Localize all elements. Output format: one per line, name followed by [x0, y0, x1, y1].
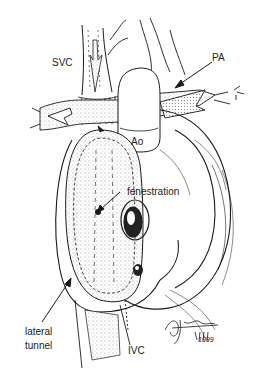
label-svc: SVC — [52, 57, 73, 68]
label-lateral-tunnel-line1: lateral — [25, 326, 52, 337]
signature-year: 1999 — [198, 334, 214, 345]
label-ao: Ao — [131, 136, 143, 147]
label-lateral-tunnel-line2: tunnel — [25, 340, 52, 351]
ivc-vessel — [75, 300, 130, 368]
label-pa: PA — [212, 52, 225, 63]
fontan-lateral-tunnel-illustration: SVC PA Ao fenestration lateral tunnel IV… — [0, 0, 256, 368]
svc-vessel — [82, 25, 112, 95]
label-fenestration: fenestration — [127, 186, 179, 197]
coronary-sinus — [133, 264, 143, 276]
label-ivc: IVC — [128, 345, 145, 356]
